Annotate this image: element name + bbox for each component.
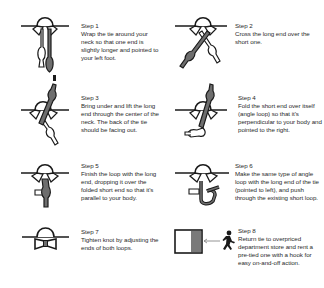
door-icon [175, 230, 202, 253]
step-4-caption: Step 4 Fold the short end over itself (a… [238, 94, 322, 134]
step-7-caption: Step 7 Tighten knot by adjusting the end… [81, 228, 161, 252]
second-loop-illustration [175, 155, 235, 210]
step-8-text: Return tie to overpriced department stor… [238, 235, 324, 267]
step-1: Step 1 Wrap the tie around your neck so … [0, 0, 162, 75]
short-end-folded-illustration [175, 80, 235, 145]
step-4-label: Step 4 [238, 94, 322, 102]
step-6-caption: Step 6 Make the same type of angle loop … [235, 162, 323, 202]
tie-ends-crossed-illustration [175, 5, 235, 70]
step-5-text: Finish the loop with the long end, dropp… [81, 170, 161, 202]
step-6-text: Make the same type of angle loop with th… [235, 170, 323, 202]
arrow-left-icon [204, 239, 220, 243]
step-2-caption: Step 2 Cross the long end over the short… [235, 22, 323, 46]
step-4-text: Fold the short end over itself (angle lo… [238, 102, 322, 134]
finished-bow-tie-illustration [15, 220, 75, 260]
running-exit-illustration [174, 228, 238, 258]
step-3-label: Step 3 [81, 94, 161, 102]
step-7-label: Step 7 [81, 228, 161, 236]
step-2: Step 2 Cross the long end over the short… [162, 0, 324, 75]
long-end-dropped-illustration [15, 155, 75, 210]
step-3-caption-text: Step 3 Bring under and lift the long end… [81, 94, 161, 134]
step-2-text: Cross the long end over the short one. [235, 30, 323, 46]
step-1-caption: Step 1 Wrap the tie around your neck so … [81, 22, 161, 62]
step-5-label: Step 5 [81, 162, 161, 170]
step-5-caption: Step 5 Finish the loop with the long end… [81, 162, 161, 202]
step-8-caption: Step 8 Return tie to overpriced departme… [238, 227, 324, 267]
long-end-lifted-illustration [15, 75, 75, 147]
tie-draped-around-neck-illustration [15, 5, 75, 75]
step-7-text: Tighten knot by adjusting the ends of bo… [81, 236, 161, 252]
step-1-text: Wrap the tie around your neck so that on… [81, 30, 161, 62]
step-3-text: Bring under and lift the long end throug… [81, 102, 161, 134]
running-person-icon [223, 231, 236, 250]
step-6-label: Step 6 [235, 162, 323, 170]
step-2-label: Step 2 [235, 22, 323, 30]
step-8-label: Step 8 [238, 227, 324, 235]
step-1-label: Step 1 [81, 22, 161, 30]
